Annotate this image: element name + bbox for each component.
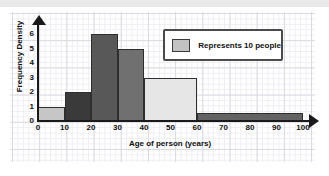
x-tick-label: 90 xyxy=(267,123,287,132)
histogram-bar xyxy=(118,49,145,121)
y-tick-label: 5 xyxy=(24,44,34,53)
x-tick-label: 60 xyxy=(187,123,207,132)
histogram-bar xyxy=(65,92,92,121)
x-axis-title: Age of person (years) xyxy=(90,139,250,148)
y-tick-label: 6 xyxy=(24,29,34,38)
plot-area: 0102030405060708090100 0123456 Age of pe… xyxy=(0,0,329,176)
y-axis-line xyxy=(37,24,39,122)
y-tick-label: 4 xyxy=(24,58,34,67)
x-tick-label: 20 xyxy=(81,123,101,132)
y-tick-label: 2 xyxy=(24,87,34,96)
x-tick-label: 10 xyxy=(55,123,75,132)
x-tick-label: 30 xyxy=(108,123,128,132)
histogram-bar xyxy=(91,34,118,121)
x-tick-label: 40 xyxy=(134,123,154,132)
histogram-figure: 0102030405060708090100 0123456 Age of pe… xyxy=(0,0,329,176)
legend-label: Represents 10 people xyxy=(198,41,281,50)
x-tick-label: 80 xyxy=(240,123,260,132)
histogram-bar xyxy=(38,107,65,121)
x-tick-label: 50 xyxy=(161,123,181,132)
y-tick-label: 1 xyxy=(24,102,34,111)
histogram-bar xyxy=(144,78,197,121)
x-axis-line xyxy=(37,120,311,122)
y-tick-label: 0 xyxy=(24,116,34,125)
legend-swatch xyxy=(172,39,190,52)
y-axis-title: Frequency Density xyxy=(15,12,24,102)
legend-box: Represents 10 people xyxy=(163,29,283,61)
y-axis-arrow-icon xyxy=(32,15,46,25)
y-tick-label: 3 xyxy=(24,73,34,82)
x-tick-label: 70 xyxy=(214,123,234,132)
x-tick-label: 100 xyxy=(293,123,313,132)
